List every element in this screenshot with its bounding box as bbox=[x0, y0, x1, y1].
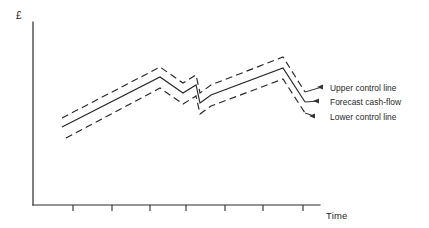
forecast-cash-flow-line bbox=[62, 68, 305, 127]
callout-label-lower-control-line: Lower control line bbox=[330, 112, 397, 122]
callout-label-upper-control-line: Upper control line bbox=[330, 83, 397, 93]
arrow-head-upper bbox=[317, 84, 323, 89]
series-group bbox=[62, 57, 305, 138]
lower-control-line bbox=[66, 79, 305, 138]
x-axis-label: Time bbox=[326, 210, 348, 221]
callout-leader-group bbox=[305, 84, 323, 118]
y-axis-label: £ bbox=[16, 10, 22, 21]
axis-group bbox=[33, 22, 320, 211]
arrow-head-middle bbox=[313, 98, 319, 103]
callout-label-forecast-cash-flow: Forecast cash-flow bbox=[330, 97, 401, 107]
x-axis-tick-group bbox=[73, 205, 303, 211]
cash-flow-control-chart: £ Time Upper control line Forecast cash-… bbox=[0, 0, 429, 228]
